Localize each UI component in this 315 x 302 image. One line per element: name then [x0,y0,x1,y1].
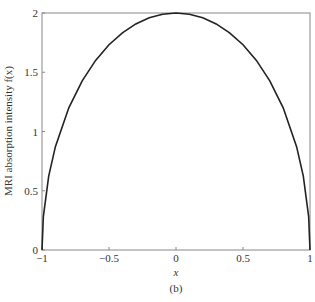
x-axis-label: x [173,266,179,278]
x-tick-label: 0 [173,252,179,264]
series-line-f-x [42,13,310,250]
figure-caption: (b) [170,282,183,295]
chart: −1−0.500.51 00.511.52 x MRI absorption i… [0,0,315,302]
y-tick-label: 0 [33,244,39,256]
y-tick-label: 1 [33,126,39,138]
x-tick-label: 1 [307,252,313,264]
x-tick-label: 0.5 [236,252,250,264]
y-tick-label: 2 [33,7,39,19]
y-axis-label: MRI absorption intensity f(x) [2,66,15,196]
y-tick-label: 1.5 [24,66,38,78]
plot-frame [42,13,310,250]
y-tick-label: 0.5 [24,185,38,197]
x-tick-label: −0.5 [99,252,119,264]
